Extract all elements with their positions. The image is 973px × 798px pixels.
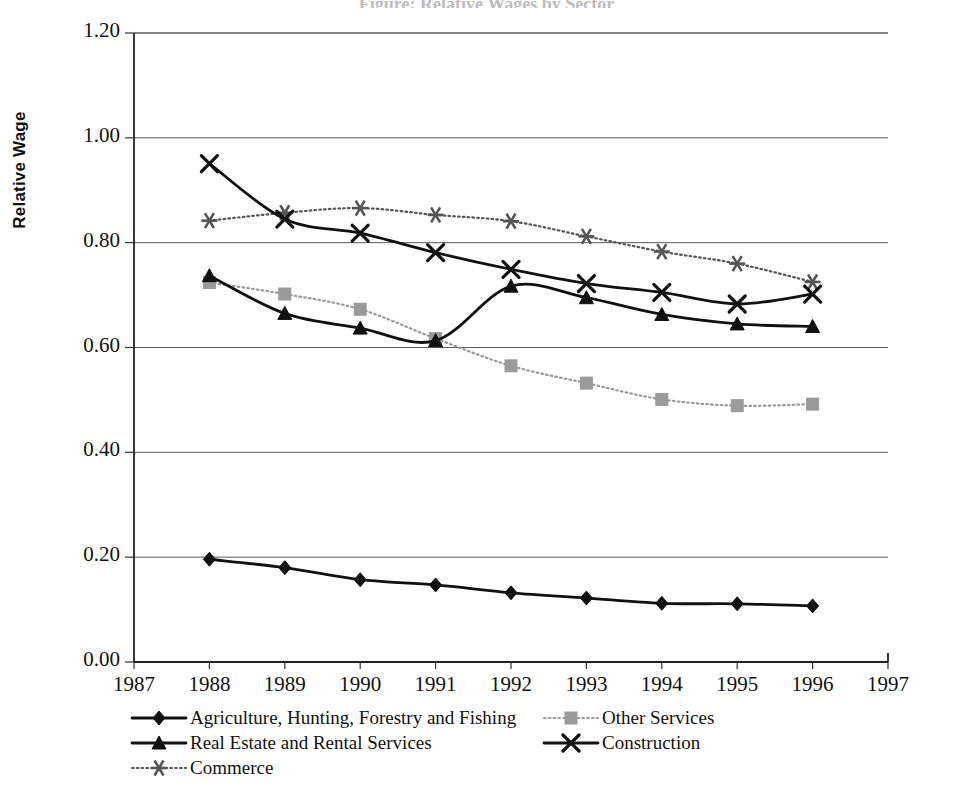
- square-marker: [580, 377, 592, 389]
- asterisk-marker: [151, 761, 167, 776]
- x-tick-label: 1991: [396, 672, 476, 697]
- y-tick-label: 0.40: [32, 437, 120, 462]
- asterisk-marker: [578, 229, 594, 244]
- series-diamond: [203, 552, 818, 613]
- y-tick-label: 1.20: [32, 18, 120, 43]
- legend-column-left: Agriculture, Hunting, Forestry and Fishi…: [128, 706, 516, 781]
- asterisk-marker: [503, 214, 519, 229]
- square-marker: [354, 303, 366, 315]
- asterisk-marker: [428, 207, 444, 222]
- series-line: [209, 283, 812, 406]
- y-axis-ticks: 1.201.000.800.600.400.200.00: [28, 0, 120, 700]
- square-marker: [279, 288, 291, 300]
- y-tick-label: 0.60: [32, 333, 120, 358]
- legend-key-icon: [128, 733, 190, 753]
- chart-legend: Agriculture, Hunting, Forestry and Fishi…: [0, 706, 973, 798]
- legend-item-label: Commerce: [190, 758, 273, 778]
- legend-item[interactable]: Commerce: [128, 756, 516, 780]
- series-square: [203, 277, 818, 412]
- x-tick-label: 1987: [94, 672, 174, 697]
- asterisk-marker: [654, 244, 670, 259]
- legend-item-label: Other Services: [602, 708, 714, 728]
- legend-key-icon: [128, 758, 190, 778]
- square-marker: [807, 398, 819, 410]
- asterisk-marker: [729, 256, 745, 271]
- y-tick-label: 1.00: [32, 123, 120, 148]
- square-marker: [731, 400, 743, 412]
- legend-item-label: Construction: [602, 733, 700, 753]
- y-tick-label: 0.20: [32, 542, 120, 567]
- x-tick-label: 1992: [471, 672, 551, 697]
- series-triangle: [202, 269, 819, 347]
- legend-key-icon: [540, 733, 602, 753]
- y-tick-label: 0.80: [32, 228, 120, 253]
- x-tick-label: 1989: [245, 672, 325, 697]
- legend-item-label: Agriculture, Hunting, Forestry and Fishi…: [190, 708, 516, 728]
- chart-page: Figure: Relative Wages by Sector Relativ…: [0, 0, 973, 798]
- x-tick-label: 1997: [848, 672, 928, 697]
- square-marker: [656, 393, 668, 405]
- x-tick-label: 1988: [169, 672, 249, 697]
- asterisk-marker: [201, 213, 217, 228]
- x-tick-label: 1994: [622, 672, 702, 697]
- legend-column-right: Other ServicesConstruction: [540, 706, 714, 756]
- legend-item[interactable]: Construction: [540, 731, 714, 755]
- diamond-marker: [656, 596, 668, 610]
- chart-plot-area: [0, 0, 973, 700]
- diamond-marker: [203, 552, 215, 566]
- diamond-marker: [279, 561, 291, 575]
- x-marker: [201, 156, 217, 172]
- diamond-marker: [731, 597, 743, 611]
- legend-item[interactable]: Agriculture, Hunting, Forestry and Fishi…: [128, 706, 516, 730]
- y-tick-label: 0.00: [32, 647, 120, 672]
- diamond-marker: [580, 591, 592, 605]
- square-marker: [565, 712, 577, 724]
- asterisk-marker: [352, 201, 368, 216]
- diamond-marker: [505, 586, 517, 600]
- diamond-marker: [430, 578, 442, 592]
- line-chart-svg: [0, 0, 973, 700]
- series-asterisk: [201, 201, 820, 290]
- legend-key-icon: [540, 708, 602, 728]
- y-axis-label: Relative Wage: [10, 70, 30, 270]
- triangle-marker: [202, 269, 216, 282]
- square-marker: [505, 360, 517, 372]
- legend-item[interactable]: Real Estate and Rental Services: [128, 731, 516, 755]
- legend-item-label: Real Estate and Rental Services: [190, 733, 432, 753]
- x-tick-label: 1996: [773, 672, 853, 697]
- diamond-marker: [807, 599, 819, 613]
- x-tick-label: 1995: [697, 672, 777, 697]
- diamond-marker: [153, 711, 165, 725]
- legend-item[interactable]: Other Services: [540, 706, 714, 730]
- x-tick-label: 1990: [320, 672, 400, 697]
- x-tick-label: 1993: [546, 672, 626, 697]
- diamond-marker: [354, 573, 366, 587]
- legend-key-icon: [128, 708, 190, 728]
